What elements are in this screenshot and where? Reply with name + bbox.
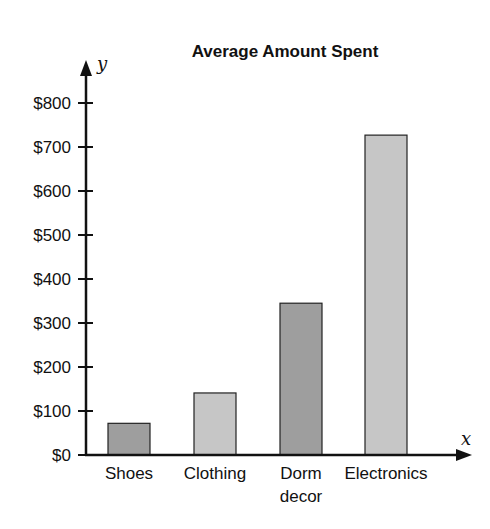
y-axis-arrow-icon	[80, 60, 92, 76]
bars	[108, 135, 407, 455]
x-category-label: Clothing	[184, 464, 246, 483]
y-axis-ticks: $0$100$200$300$400$500$600$700$800	[33, 94, 93, 465]
bar-shoes	[108, 423, 150, 455]
x-category-label: Electronics	[344, 464, 427, 483]
y-tick-label: $700	[33, 138, 71, 157]
x-axis-arrow-icon	[456, 449, 472, 461]
bar-electronics	[365, 135, 407, 455]
y-tick-label: $600	[33, 182, 71, 201]
bar-dorm-decor	[280, 303, 322, 455]
y-tick-label: $100	[33, 402, 71, 421]
bar-chart: Average Amount Spent $0$100$200$300$400$…	[0, 0, 490, 529]
y-tick-label: $500	[33, 226, 71, 245]
y-tick-label: $800	[33, 94, 71, 113]
y-tick-label: $200	[33, 358, 71, 377]
x-category-label: Dorm	[280, 464, 322, 483]
bar-clothing	[194, 393, 236, 455]
chart-title: Average Amount Spent	[192, 42, 379, 61]
y-tick-label: $300	[33, 314, 71, 333]
x-axis-variable-label: x	[461, 428, 471, 449]
x-category-label: Shoes	[105, 464, 153, 483]
y-tick-label: $0	[52, 446, 71, 465]
y-tick-label: $400	[33, 270, 71, 289]
x-axis-category-labels: ShoesClothingDormdecorElectronics	[105, 464, 428, 506]
y-axis-variable-label: y	[96, 53, 108, 74]
x-category-label: decor	[280, 487, 323, 506]
